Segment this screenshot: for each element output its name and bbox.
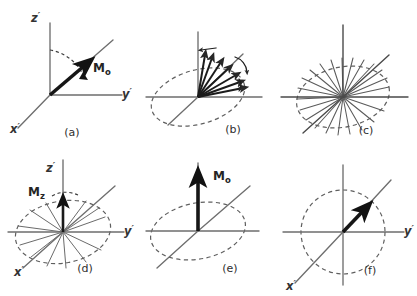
panel-d-spoke bbox=[63, 232, 86, 262]
panel-d-spoke bbox=[47, 232, 63, 266]
panel-d-mz-arc bbox=[52, 192, 78, 196]
panel-a-y-label: y′ bbox=[122, 87, 133, 101]
panel-b-curved-arrow-left bbox=[201, 48, 216, 50]
panel-f-residual-vector bbox=[343, 211, 363, 232]
panel-a-flip-arc bbox=[50, 50, 84, 77]
panel-d-x-axis-neg bbox=[23, 232, 63, 268]
panel-d-z-label: z′ bbox=[45, 161, 56, 175]
panel-a-letter: (a) bbox=[64, 126, 79, 139]
panel-f: y′ x′ (f) bbox=[283, 165, 415, 293]
panel-d-spoke bbox=[63, 217, 105, 232]
panel-a-x-label: x′ bbox=[9, 122, 20, 136]
panel-b: (b) bbox=[144, 32, 262, 136]
panel-e-x-axis-pos bbox=[198, 186, 250, 231]
panel-a-m0-vector bbox=[50, 66, 84, 95]
panel-d-spoke bbox=[18, 226, 63, 232]
panel-d-spoke bbox=[63, 232, 101, 250]
panel-d-spoke bbox=[63, 208, 99, 232]
panel-b-x-axis-neg bbox=[168, 97, 198, 125]
panel-e: Mo (e) bbox=[146, 163, 259, 275]
panel-d-spoke bbox=[46, 203, 63, 232]
panel-f-y-label: y′ bbox=[404, 224, 415, 238]
panel-d-spoke bbox=[63, 232, 66, 268]
panel-d-spoke bbox=[63, 201, 86, 232]
panel-b-letter: (b) bbox=[225, 123, 241, 136]
figure-root: z′ y′ x′ Mo (a) (b) bbox=[0, 0, 417, 296]
panel-d-y-label: y′ bbox=[124, 224, 135, 238]
panel-d-x-label: x′ bbox=[13, 265, 24, 279]
panel-e-x-axis-neg bbox=[157, 231, 198, 268]
panel-c-spoke bbox=[298, 88, 343, 97]
panel-e-letter: (e) bbox=[222, 262, 237, 275]
panel-f-x-label: x′ bbox=[285, 279, 296, 293]
panel-a-z-label: z′ bbox=[30, 11, 41, 25]
panel-a-m0-label: Mo bbox=[93, 61, 111, 77]
panel-d-letter: (d) bbox=[77, 262, 93, 275]
panel-e-m0-label: Mo bbox=[213, 169, 231, 185]
panel-f-letter: (f) bbox=[364, 264, 376, 277]
panel-c-spoke bbox=[343, 97, 384, 111]
panel-c-spoke bbox=[343, 78, 387, 97]
panel-c-letter: (c) bbox=[359, 124, 374, 137]
panel-c-x-axis-neg bbox=[303, 97, 343, 133]
panel-a-arc-head bbox=[79, 72, 88, 80]
panel-a: z′ y′ x′ Mo (a) bbox=[9, 11, 133, 139]
panel-c: (c) bbox=[281, 25, 408, 137]
panel-c-spoke bbox=[343, 97, 374, 122]
panel-b-curved-arrow-lower bbox=[239, 79, 241, 89]
relaxation-figure: z′ y′ x′ Mo (a) (b) bbox=[0, 0, 417, 296]
panel-d-mz-label: Mz bbox=[28, 185, 45, 201]
panel-d: z′ y′ x′ Mz (d) bbox=[8, 160, 135, 279]
panel-a-x-axis-neg bbox=[18, 95, 50, 128]
